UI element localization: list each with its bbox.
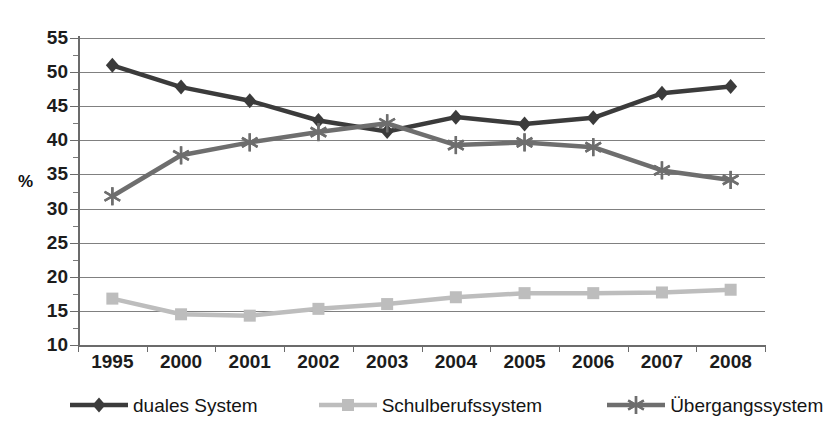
marker-asterisk-ray — [448, 141, 464, 150]
y-tick-label-55: 55 — [28, 28, 68, 47]
marker-square — [106, 293, 118, 305]
gridline-15 — [78, 311, 765, 312]
marker-asterisk-ray — [105, 192, 121, 201]
y-tick-10 — [70, 345, 78, 346]
y-tick-label-45: 45 — [28, 96, 68, 115]
marker-diamond — [381, 124, 394, 139]
y-tick-label-30: 30 — [28, 199, 68, 218]
x-tick-label-1995: 1995 — [77, 352, 147, 371]
gridline-40 — [78, 140, 765, 141]
y-tick-label-25: 25 — [28, 233, 68, 252]
marker-asterisk-ray — [585, 143, 601, 152]
y-tick-20 — [70, 277, 78, 278]
marker-asterisk-ray — [448, 141, 464, 150]
series-duales-system — [106, 58, 737, 139]
x-tick-label-2003: 2003 — [352, 352, 422, 371]
x-tick-label-2006: 2006 — [558, 352, 628, 371]
marker-asterisk-ray — [723, 175, 739, 184]
legend-label-1: Schulberufssystem — [382, 396, 543, 415]
gridline-45 — [78, 106, 765, 107]
marker-asterisk-ray — [723, 175, 739, 184]
marker-diamond — [175, 80, 188, 95]
clipped-header-artifact — [0, 0, 787, 7]
marker-square — [725, 284, 737, 296]
series-line — [112, 123, 730, 196]
marker-asterisk-ray — [173, 151, 189, 160]
x-tick-label-2002: 2002 — [283, 352, 353, 371]
y-tick-25 — [70, 243, 78, 244]
gridline-20 — [78, 277, 765, 278]
marker-diamond — [587, 110, 600, 125]
gridline-30 — [78, 209, 765, 210]
legend-label-0: duales System — [133, 396, 258, 415]
x-tick-label-2001: 2001 — [215, 352, 285, 371]
y-tick-35 — [70, 174, 78, 175]
marker-asterisk-ray — [311, 128, 327, 137]
marker-diamond — [106, 58, 119, 73]
gridline-55 — [78, 38, 765, 39]
gridline-35 — [78, 174, 765, 175]
y-tick-55 — [70, 38, 78, 39]
marker-asterisk-ray — [173, 151, 189, 160]
marker-asterisk-ray — [585, 143, 601, 152]
y-tick-30 — [70, 209, 78, 210]
marker-square — [312, 303, 324, 315]
marker-asterisk-ray — [379, 119, 395, 128]
legend-entry-1[interactable]: Schulberufssystem — [317, 394, 543, 416]
marker-asterisk-ray — [379, 119, 395, 128]
marker-diamond — [449, 110, 462, 125]
legend-marker-asterisk-icon — [605, 394, 667, 416]
y-tick-45 — [70, 106, 78, 107]
marker-square — [519, 287, 531, 299]
marker-square — [587, 287, 599, 299]
y-tick-label-15: 15 — [28, 301, 68, 320]
marker-asterisk-ray — [379, 119, 395, 128]
series-schulberufssystem — [106, 284, 736, 322]
marker-square — [381, 298, 393, 310]
y-tick-label-35: 35 — [28, 164, 68, 183]
marker-asterisk-ray — [311, 128, 327, 137]
series-line — [112, 65, 730, 131]
marker-diamond — [312, 113, 325, 128]
x-tick-label-2000: 2000 — [146, 352, 216, 371]
y-tick-15 — [70, 311, 78, 312]
marker-asterisk-ray — [105, 192, 121, 201]
marker-asterisk-ray — [448, 141, 464, 150]
x-tick-label-2005: 2005 — [490, 352, 560, 371]
marker-asterisk-ray — [585, 143, 601, 152]
marker-asterisk-ray — [723, 175, 739, 184]
marker-asterisk-ray — [723, 175, 739, 184]
legend-entry-0[interactable]: duales System — [68, 394, 258, 416]
y-tick-label-40: 40 — [28, 130, 68, 149]
x-tick-label-2008: 2008 — [696, 352, 766, 371]
y-tick-label-50: 50 — [28, 62, 68, 81]
marker-square — [342, 399, 354, 411]
x-tick-label-2007: 2007 — [627, 352, 697, 371]
legend-marker-square-icon — [317, 394, 379, 416]
marker-asterisk-ray — [379, 119, 395, 128]
legend-entry-2[interactable]: Übergangssystem — [605, 394, 823, 416]
marker-diamond — [655, 86, 668, 101]
legend-marker-diamond-icon — [68, 394, 130, 416]
marker-diamond — [518, 116, 531, 131]
x-tick-label-2004: 2004 — [421, 352, 491, 371]
y-axis-title: % — [18, 172, 33, 192]
marker-diamond — [93, 398, 106, 413]
marker-asterisk-ray — [105, 192, 121, 201]
legend-label-2: Übergangssystem — [670, 396, 823, 415]
y-tick-label-10: 10 — [28, 335, 68, 354]
x-axis-line — [78, 345, 766, 347]
marker-asterisk-ray — [448, 141, 464, 150]
gridline-50 — [78, 72, 765, 73]
marker-asterisk-ray — [105, 192, 121, 201]
marker-asterisk-ray — [311, 128, 327, 137]
y-tick-50 — [70, 72, 78, 73]
chart-legend: duales SystemSchulberufssystemÜbergangss… — [60, 388, 780, 422]
marker-asterisk-ray — [585, 143, 601, 152]
y-tick-label-20: 20 — [28, 267, 68, 286]
marker-diamond — [724, 79, 737, 94]
marker-square — [656, 286, 668, 298]
gridline-25 — [78, 243, 765, 244]
